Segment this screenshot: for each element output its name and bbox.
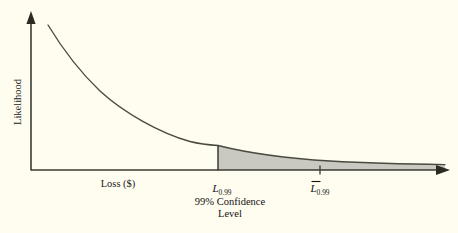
cutoff-symbol: L bbox=[211, 182, 218, 194]
chart-figure: Likelihood Loss ($) L0.99 99% Confidence… bbox=[0, 0, 458, 233]
mean-loss-label: L0.99 bbox=[309, 182, 329, 197]
likelihood-loss-chart: Likelihood Loss ($) L0.99 99% Confidence… bbox=[0, 0, 458, 233]
x-axis-label: Loss ($) bbox=[101, 178, 136, 190]
mean-subscript: 0.99 bbox=[317, 188, 330, 197]
y-axis-arrow-icon bbox=[26, 11, 35, 24]
confidence-caption-line2: Level bbox=[218, 208, 242, 219]
svg-text:L0.99: L0.99 bbox=[309, 182, 329, 197]
confidence-caption-line1: 99% Confidence bbox=[195, 196, 266, 207]
tail-shaded-region bbox=[218, 146, 445, 171]
svg-text:L0.99: L0.99 bbox=[211, 182, 231, 197]
mean-symbol: L bbox=[309, 182, 316, 194]
confidence-cutoff-label: L0.99 bbox=[211, 182, 231, 197]
y-axis-label: Likelihood bbox=[12, 78, 23, 125]
likelihood-curve bbox=[48, 25, 445, 165]
